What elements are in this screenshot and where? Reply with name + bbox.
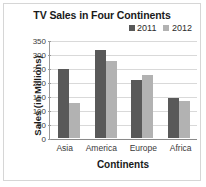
y-axis-tick-label: 200 <box>33 79 46 88</box>
bar-asia-2011[interactable] <box>58 69 69 138</box>
y-axis-tick-mark <box>48 139 51 140</box>
y-axis-tick-label: 150 <box>33 93 46 102</box>
x-axis-title: Continents <box>49 159 197 170</box>
x-axis-tick-label: Europe <box>130 143 157 153</box>
x-axis-tick-label: Africa <box>170 143 192 153</box>
bar-group <box>168 41 190 138</box>
x-axis-tick-label: Asia <box>56 143 73 153</box>
y-axis-tick-label: 300 <box>33 51 46 60</box>
chart-legend: 2011 2012 <box>129 23 192 33</box>
chart-title: TV Sales in Four Continents <box>4 9 200 21</box>
bar-africa-2011[interactable] <box>168 98 179 138</box>
bar-group <box>131 41 153 138</box>
legend-swatch-2011-icon <box>129 25 135 31</box>
y-axis-tick-label: 350 <box>33 37 46 46</box>
y-axis-tick-label: 50 <box>37 121 46 130</box>
bar-europe-2012[interactable] <box>142 75 153 138</box>
y-axis-tick-label: 0 <box>42 135 46 144</box>
bar-group <box>58 41 80 138</box>
chart-frame: TV Sales in Four Continents 2011 2012 Sa… <box>3 3 201 181</box>
bar-america-2011[interactable] <box>95 50 106 138</box>
bar-asia-2012[interactable] <box>69 103 80 138</box>
bar-group <box>95 41 117 138</box>
legend-label-2012: 2012 <box>172 23 192 33</box>
legend-label-2011: 2011 <box>137 23 156 33</box>
gridline <box>50 139 197 140</box>
bar-groups <box>51 41 197 138</box>
plot-wrapper: 050100150200250300350 <box>49 41 197 140</box>
bar-africa-2012[interactable] <box>179 101 190 138</box>
y-axis-tick-label: 250 <box>33 65 46 74</box>
legend-item-2011: 2011 <box>129 23 157 33</box>
x-axis-tick-label: America <box>86 143 117 153</box>
x-axis-tick-labels: AsiaAmericaEuropeAfrica <box>50 143 198 153</box>
bar-europe-2011[interactable] <box>131 80 142 138</box>
plot-area: 050100150200250300350 <box>49 41 197 140</box>
bar-america-2012[interactable] <box>106 61 117 138</box>
legend-swatch-2012-icon <box>163 25 169 31</box>
y-axis-tick-label: 100 <box>33 107 46 116</box>
legend-item-2012: 2012 <box>163 23 192 33</box>
